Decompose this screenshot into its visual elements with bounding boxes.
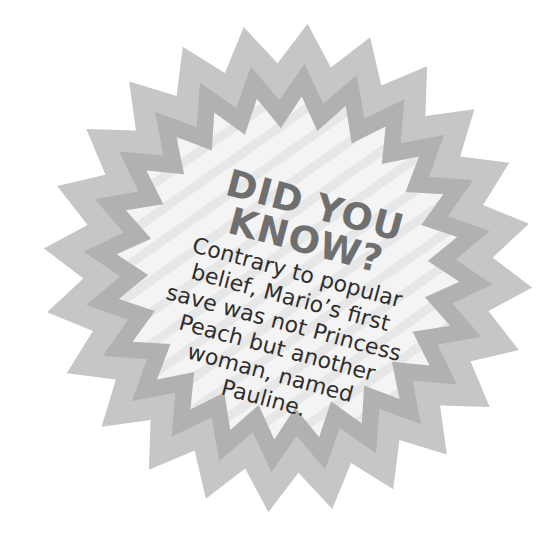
did-you-know-badge: DID YOU KNOW? Contrary to popular belief… — [0, 0, 550, 539]
